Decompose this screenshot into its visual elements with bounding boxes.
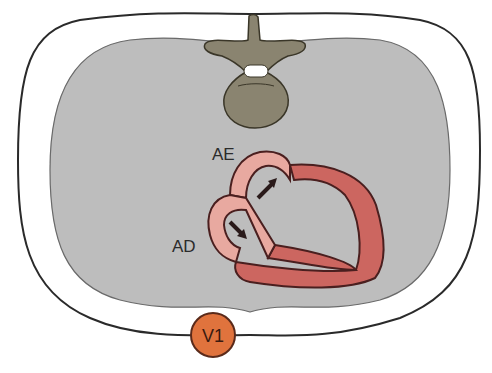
thorax-diagram: AE AD V1 xyxy=(0,0,492,373)
electrode-label: V1 xyxy=(202,326,224,346)
label-right-atrium: AD xyxy=(172,237,196,256)
label-left-atrium: AE xyxy=(212,145,235,164)
electrode-v1: V1 xyxy=(191,313,235,357)
